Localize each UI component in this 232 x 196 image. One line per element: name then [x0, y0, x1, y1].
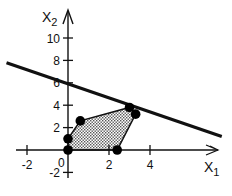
vertex-point	[63, 134, 73, 144]
y-tick-label: 4	[53, 99, 60, 113]
y-axis-label: X2	[42, 9, 57, 28]
chart-container: -224 108642-2 X2 X1 0	[0, 0, 232, 196]
y-tick-label: 10	[47, 32, 61, 46]
feasible-region	[68, 107, 136, 150]
origin-label: 0	[58, 156, 65, 170]
y-tick-label: 2	[53, 121, 60, 135]
vertex-point	[63, 145, 73, 155]
vertex-point	[131, 109, 141, 119]
y-tick-label: 8	[53, 54, 60, 68]
x-axis-label: X1	[204, 159, 219, 178]
vertex-point	[112, 145, 122, 155]
x-tick-label: 2	[106, 158, 113, 172]
x-tick-label: 4	[147, 158, 154, 172]
x-tick-label: -2	[22, 158, 33, 172]
vertex-point	[76, 116, 86, 126]
chart-svg: -224 108642-2 X2 X1 0	[0, 0, 232, 196]
